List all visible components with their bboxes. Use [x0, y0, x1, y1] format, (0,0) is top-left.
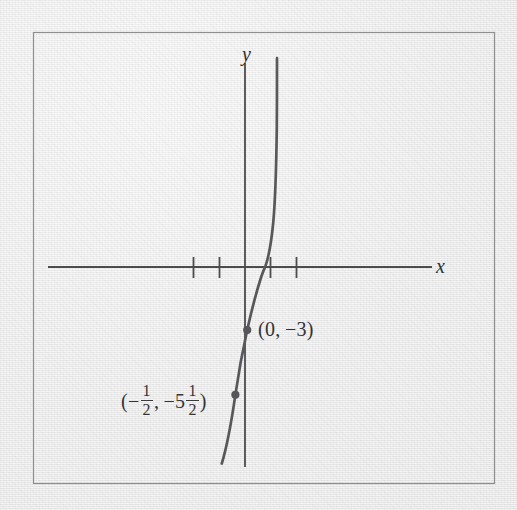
coord-x-value: 0 — [265, 318, 275, 340]
y-axis-label-text: y — [242, 43, 251, 65]
fraction-denominator: 2 — [141, 401, 153, 418]
coord-comma: , — [275, 318, 280, 340]
fraction-one-half-y: 1 2 — [186, 383, 198, 418]
point-marker-y-intercept — [243, 326, 251, 334]
paren-open: ( — [258, 318, 265, 340]
fraction-denominator: 2 — [186, 401, 198, 418]
paren-close: ) — [200, 390, 207, 412]
point-label-second-point: (− 1 2 , −5 1 2 ) — [121, 383, 207, 418]
fraction-numerator: 1 — [186, 383, 198, 401]
point-label-y-intercept: (0, −3) — [258, 318, 314, 341]
x-axis-label-text: x — [436, 255, 445, 277]
coord-y-sign: − — [164, 390, 176, 412]
fraction-one-half-x: 1 2 — [141, 383, 153, 418]
fraction-numerator: 1 — [141, 383, 153, 401]
point-marker-second-point — [231, 391, 239, 399]
x-axis-label: x — [436, 255, 445, 278]
figure-root: x y (0, −3) (− 1 2 , −5 1 2 ) — [0, 0, 517, 510]
function-curve — [222, 58, 277, 463]
y-axis-label: y — [242, 43, 251, 66]
paren-open: ( — [121, 390, 128, 412]
coord-y-value: −3 — [285, 318, 307, 340]
coord-y-whole: 5 — [175, 390, 185, 412]
paren-close: ) — [307, 318, 314, 340]
figure-border — [34, 33, 495, 484]
coord-x-sign: − — [128, 390, 140, 412]
coord-comma: , — [154, 390, 159, 412]
